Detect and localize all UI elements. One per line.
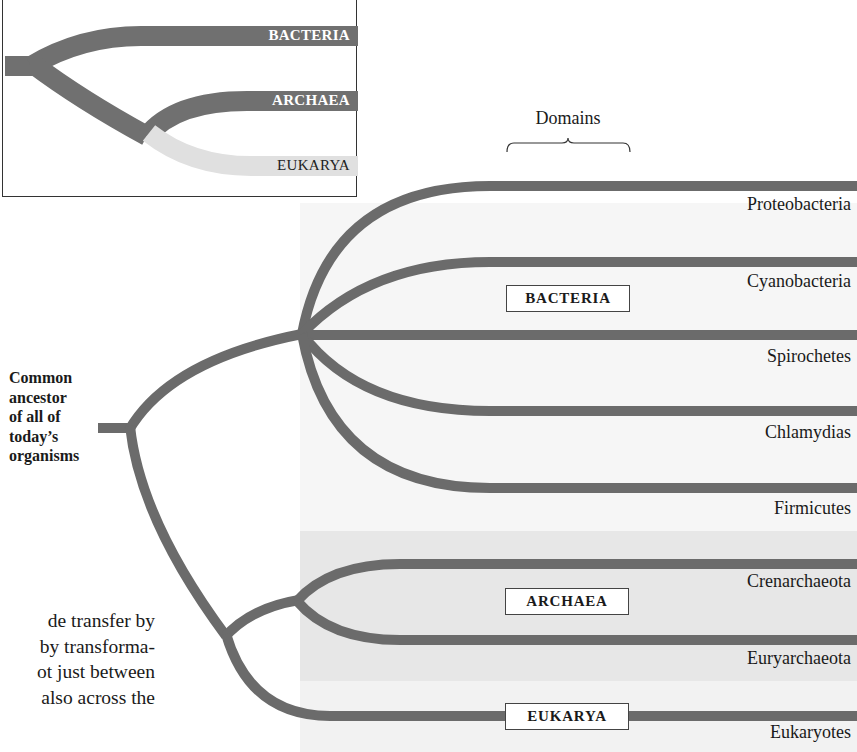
ancestor-line: of all of xyxy=(9,407,79,427)
inset-label-archaea: ARCHAEA xyxy=(272,92,350,109)
taxon-firmicutes: Firmicutes xyxy=(774,498,851,519)
taxon-spirochetes: Spirochetes xyxy=(767,346,851,367)
taxon-cyanobacteria: Cyanobacteria xyxy=(747,271,851,292)
common-ancestor-label: Common ancestor of all of today’s organi… xyxy=(9,368,79,466)
taxon-chlamydias: Chlamydias xyxy=(765,422,851,443)
taxon-crenarchaeota: Crenarchaeota xyxy=(747,571,851,592)
branch-to-archaea-eukarya xyxy=(130,426,226,636)
ancestor-line: organisms xyxy=(9,446,79,466)
ancestor-line: today’s xyxy=(9,427,79,447)
ancestor-line: ancestor xyxy=(9,388,79,408)
branch-to-bacteria xyxy=(129,334,302,430)
inset-label-bacteria: BACTERIA xyxy=(268,27,350,44)
body-text-line: de transfer by xyxy=(37,608,155,634)
domains-heading: Domains xyxy=(506,108,630,129)
domains-bracket xyxy=(507,138,630,152)
body-text-line: ot just between xyxy=(37,659,155,685)
taxon-euryarchaeota: Euryarchaeota xyxy=(747,648,851,669)
ancestor-line: Common xyxy=(9,368,79,388)
branch-to-archaea xyxy=(224,600,299,638)
body-text-line: also across the xyxy=(37,685,155,711)
domain-label-bacteria: BACTERIA xyxy=(506,285,630,312)
domain-label-eukarya: EUKARYA xyxy=(505,703,629,730)
inset-label-eukarya: EUKARYA xyxy=(277,157,350,174)
inset-overview: BACTERIA ARCHAEA EUKARYA xyxy=(2,0,357,197)
body-text-line: by transforma- xyxy=(37,634,155,660)
taxon-proteobacteria: Proteobacteria xyxy=(747,194,851,215)
domain-label-archaea: ARCHAEA xyxy=(505,588,629,615)
taxon-eukaryotes: Eukaryotes xyxy=(770,722,851,743)
body-text-fragment: de transfer by by transforma- ot just be… xyxy=(37,608,155,710)
